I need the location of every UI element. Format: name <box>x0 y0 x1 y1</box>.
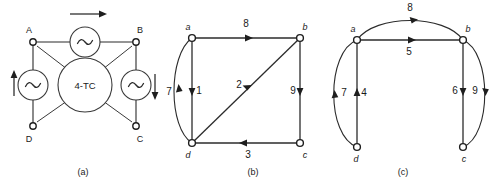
caption-panel-a: (a) <box>78 167 89 177</box>
edge-7-d-to-a: 7 <box>166 38 192 143</box>
node-label-C: C <box>137 134 144 144</box>
vertex-c-c <box>460 144 467 151</box>
edge-1-a-to-d: 1 <box>189 38 203 143</box>
three-panel-graph-figure: 4-TC A B C D <box>0 0 497 186</box>
node-label-B: B <box>137 25 143 35</box>
center-label-4tc: 4-TC <box>74 80 95 91</box>
vertex-label-d-c: d <box>353 154 359 164</box>
caption-panel-c: (c) <box>398 167 409 177</box>
edge-label-8-c: 8 <box>407 2 413 13</box>
vertex-label-c: c <box>303 150 308 160</box>
edge-5-a-to-b: 5 <box>357 37 463 57</box>
edge-label-4: 4 <box>361 87 367 98</box>
terminal-node-C <box>133 123 139 129</box>
terminal-node-B <box>133 39 139 45</box>
edge-label-7: 7 <box>166 86 172 97</box>
caption-panel-b: (b) <box>248 167 259 177</box>
vertex-label-b: b <box>302 22 307 32</box>
flow-arrow-top <box>70 11 107 18</box>
vertex-d <box>189 140 196 147</box>
ac-source-right <box>121 70 151 100</box>
vertex-c <box>297 140 304 147</box>
edge-9-b-to-c-arc: 9 <box>463 40 489 147</box>
wire-a-to-center <box>37 46 67 69</box>
vertex-b <box>297 35 304 42</box>
node-label-D: D <box>26 134 33 144</box>
terminal-node-D <box>30 123 36 129</box>
wire-c-to-center <box>103 101 132 122</box>
ac-source-left <box>18 70 48 100</box>
edge-label-7-c: 7 <box>341 87 347 98</box>
wire-d-to-center <box>37 101 67 122</box>
edge-label-1: 1 <box>196 85 202 96</box>
vertex-label-c-c: c <box>462 154 467 164</box>
edge-4-d-to-a: 4 <box>354 40 368 147</box>
vertex-label-b-c: b <box>465 24 470 34</box>
edge-9-b-to-c: 9 <box>290 38 303 143</box>
edge-2-d-to-b: 2 <box>192 38 300 143</box>
vertex-a <box>189 35 196 42</box>
vertex-b-c <box>460 37 467 44</box>
node-label-A: A <box>26 25 32 35</box>
edge-label-9: 9 <box>290 85 296 96</box>
edge-3-c-to-d: 3 <box>192 140 300 160</box>
flow-arrow-left <box>11 70 18 96</box>
edge-label-8: 8 <box>243 18 249 29</box>
edge-label-3: 3 <box>245 149 251 160</box>
edge-8-a-to-b-arc: 8 <box>357 2 463 40</box>
edge-label-9-c: 9 <box>472 85 478 96</box>
wire-b-to-center <box>103 46 132 69</box>
edge-label-2: 2 <box>236 79 242 90</box>
panel-a-circuit: 4-TC A B C D <box>11 11 159 177</box>
vertex-a-c <box>354 37 361 44</box>
figure-container: 4-TC A B C D <box>0 0 497 186</box>
ac-source-top <box>70 27 100 57</box>
edge-8-a-to-b: 8 <box>192 18 300 41</box>
panel-c-graph: 8 5 7 4 6 9 <box>332 2 489 177</box>
vertex-label-a-c: a <box>350 24 355 34</box>
vertex-label-a: a <box>185 22 190 32</box>
edge-label-6: 6 <box>452 85 458 96</box>
edge-7-d-to-a-arc: 7 <box>332 40 357 147</box>
terminal-node-A <box>30 39 36 45</box>
flow-arrow-right <box>152 74 159 100</box>
edge-label-5: 5 <box>406 46 412 57</box>
vertex-label-d: d <box>185 150 191 160</box>
edge-6-b-to-c: 6 <box>452 40 466 147</box>
vertex-d-c <box>354 144 361 151</box>
panel-b-graph: 8 7 1 2 9 3 <box>166 18 308 177</box>
